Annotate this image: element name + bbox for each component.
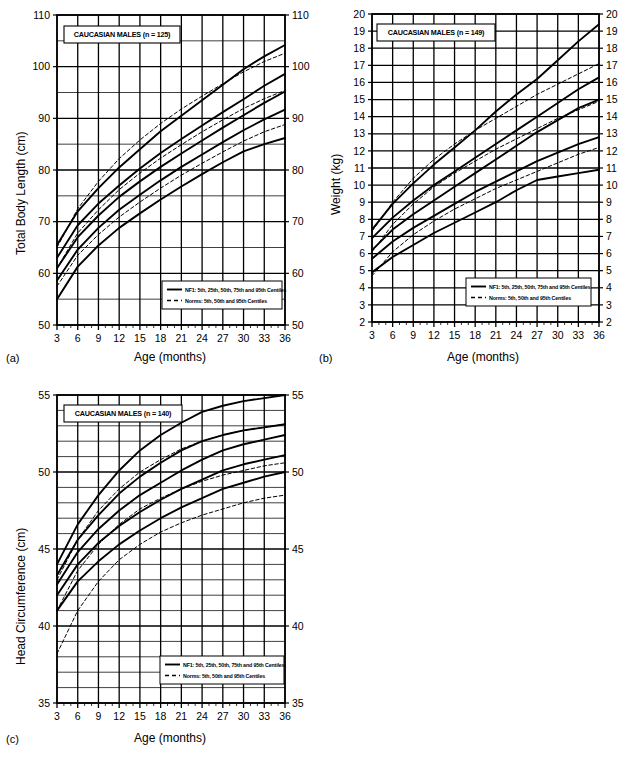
series-line-dashed [57, 424, 285, 580]
chart-title-text: CAUCASIAN MALES (n = 140) [75, 409, 172, 418]
x-tick-label: 9 [96, 710, 102, 722]
y-tick-label-left: 4 [359, 281, 365, 293]
y-tick-label-right: 17 [606, 59, 618, 71]
y-tick-label-left: 3 [359, 299, 365, 311]
legend-frame [466, 278, 591, 306]
legend-label-dashed: Norms: 5th, 50th and 95th Centiles [183, 673, 265, 679]
x-tick-label: 36 [279, 332, 291, 344]
y-tick-label-right: 60 [292, 267, 304, 279]
chart-title-text: CAUCASIAN MALES (n = 125) [74, 30, 171, 39]
x-tick-label: 12 [428, 329, 440, 341]
x-tick-label: 6 [75, 332, 81, 344]
y-tick-label-right: 19 [606, 25, 618, 37]
x-tick-label: 9 [96, 332, 102, 344]
x-tick-label: 33 [573, 329, 585, 341]
y-tick-label-left: 2 [359, 316, 365, 328]
x-tick-label: 27 [531, 329, 543, 341]
y-tick-label-right: 18 [606, 42, 618, 54]
chart-title-box: CAUCASIAN MALES (n = 149) [377, 24, 495, 41]
y-tick-label-right: 6 [606, 247, 612, 259]
x-tick-label: 36 [593, 329, 605, 341]
y-tick-label-left: 8 [359, 213, 365, 225]
y-tick-label-left: 15 [353, 93, 365, 105]
legend: NF1: 5th, 25th, 50th, 75th and 95th Cent… [466, 278, 591, 306]
x-tick-label: 3 [54, 710, 60, 722]
data-series [372, 24, 599, 276]
chart-title-text: CAUCASIAN MALES (n = 149) [388, 28, 485, 37]
panel-b-xaxis-title: Age (months) [393, 350, 573, 364]
y-tick-label-right: 14 [606, 110, 618, 122]
series-line-solid [57, 472, 285, 611]
y-tick-label-left: 110 [33, 9, 50, 21]
y-tick-label-left: 60 [38, 267, 50, 279]
legend-label-dashed: Norms: 5th, 50th and 95th Centiles [489, 295, 571, 301]
y-tick-label-right: 110 [292, 9, 309, 21]
y-tick-label-right: 2 [606, 316, 612, 328]
y-tick-label-left: 50 [38, 319, 50, 331]
y-tick-label-right: 4 [606, 281, 612, 293]
y-tick-label-right: 100 [292, 60, 310, 72]
x-tick-label: 21 [176, 710, 188, 722]
y-tick-label-left: 5 [359, 264, 365, 276]
x-tick-label: 33 [258, 332, 270, 344]
y-tick-label-left: 13 [353, 127, 365, 139]
y-tick-label-left: 35 [38, 697, 50, 709]
legend-label-solid: NF1: 5th, 25th, 50th, 75th and 95th Cent… [183, 662, 285, 668]
y-tick-label-right: 10 [606, 179, 618, 191]
legend-frame [162, 281, 282, 309]
x-tick-label: 9 [410, 329, 416, 341]
y-tick-label-right: 3 [606, 299, 612, 311]
y-tick-label-left: 6 [359, 247, 365, 259]
y-tick-label-left: 55 [38, 389, 50, 401]
y-tick-label-right: 70 [292, 215, 304, 227]
panel-c-plot: 3535404045455050555536912151821242730333… [0, 380, 313, 762]
y-tick-label-left: 14 [353, 110, 365, 122]
chart-title-box: CAUCASIAN MALES (n = 140) [64, 405, 182, 422]
y-tick-label-right: 15 [606, 93, 618, 105]
y-tick-label-left: 90 [38, 112, 50, 124]
x-tick-label: 27 [217, 710, 229, 722]
y-tick-label-right: 16 [606, 76, 618, 88]
x-tick-label: 18 [155, 332, 167, 344]
y-tick-label-right: 50 [292, 319, 304, 331]
x-tick-label: 33 [258, 710, 270, 722]
grid-lines [372, 14, 599, 322]
panel-c-yaxis-title: Head Circumference (cm) [14, 528, 28, 665]
data-series [57, 395, 285, 654]
panel-c-label: (c) [6, 733, 19, 745]
legend-label-solid: NF1: 5th, 25th, 50th, 75th and 95th Cent… [185, 287, 287, 293]
x-tick-label: 30 [238, 710, 250, 722]
y-tick-label-right: 35 [292, 697, 304, 709]
y-tick-label-right: 8 [606, 213, 612, 225]
grid-lines [57, 15, 285, 325]
y-tick-label-left: 20 [353, 8, 365, 20]
series-line-dashed [57, 495, 285, 654]
y-tick-label-right: 7 [606, 230, 612, 242]
y-tick-label-left: 7 [359, 230, 365, 242]
x-tick-label: 15 [134, 710, 146, 722]
growth-chart-figure: 5050606070708080909010010011011036912151… [0, 0, 626, 762]
x-tick-label: 3 [54, 332, 60, 344]
panel-b-yaxis-title: Weight (kg) [329, 154, 343, 215]
y-tick-label-right: 40 [292, 620, 304, 632]
series-line-solid [372, 24, 599, 229]
panel-a-plot: 5050606070708080909010010011011036912151… [0, 0, 313, 380]
legend-frame [160, 656, 284, 684]
panel-b-label: (b) [319, 352, 332, 364]
y-tick-label-left: 70 [38, 215, 50, 227]
x-tick-label: 30 [238, 332, 250, 344]
y-tick-label-right: 55 [292, 389, 304, 401]
panel-c-xaxis-title: Age (months) [80, 731, 260, 745]
series-line-solid [57, 74, 285, 258]
y-tick-label-left: 18 [353, 42, 365, 54]
panel-b-plot: 2233445566778899101011111212131314141515… [313, 0, 626, 380]
y-tick-label-left: 40 [38, 620, 50, 632]
y-tick-label-left: 9 [359, 196, 365, 208]
data-series [57, 45, 285, 299]
x-tick-label: 12 [113, 332, 125, 344]
y-tick-label-left: 100 [32, 60, 50, 72]
panel-a-xaxis-title: Age (months) [80, 350, 260, 364]
x-tick-label: 36 [279, 710, 291, 722]
y-tick-label-left: 45 [38, 543, 50, 555]
panel-a-yaxis-title: Total Body Length (cm) [14, 132, 28, 255]
